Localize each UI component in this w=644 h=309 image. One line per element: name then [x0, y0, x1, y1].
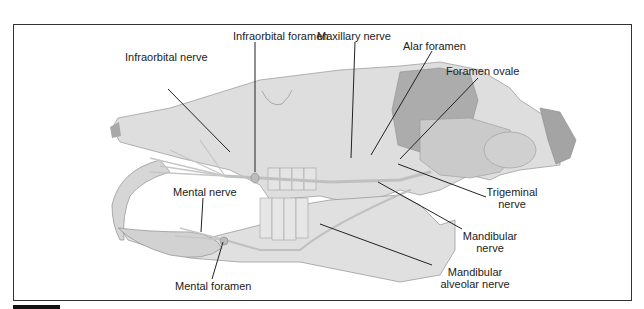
label-mental-nerve: Mental nerve	[173, 186, 237, 198]
mental-foramen-marker	[220, 237, 228, 245]
label-infraorbital-nerve: Infraorbital nerve	[125, 51, 208, 63]
lower-molars	[260, 198, 308, 240]
label-mental-foramen: Mental foramen	[175, 280, 251, 292]
label-mandibular-alveolar-nerve: Mandibular alveolar nerve	[435, 266, 515, 290]
label-foramen-ovale: Foramen ovale	[446, 65, 519, 77]
lower-incisor	[118, 228, 222, 257]
label-mandibular-nerve: Mandibular nerve	[452, 230, 528, 254]
auditory-bulla	[484, 132, 536, 168]
infraorbital-foramen-marker	[251, 173, 259, 183]
label-maxillary-nerve: Maxillary nerve	[317, 30, 391, 42]
label-infraorbital-foramen: Infraorbital foramen	[233, 30, 328, 42]
label-trigeminal-nerve: Trigeminal nerve	[482, 186, 542, 210]
skull-illustration	[0, 0, 644, 309]
label-alar-foramen: Alar foramen	[403, 40, 466, 52]
